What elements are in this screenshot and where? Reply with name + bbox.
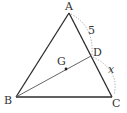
point-g <box>65 68 68 71</box>
label-d: D <box>93 46 102 59</box>
label-a: A <box>64 0 74 13</box>
segment-bd <box>16 56 91 97</box>
label-b: B <box>4 94 12 107</box>
label-c: C <box>112 97 120 110</box>
label-g: G <box>57 55 66 68</box>
label-length-ad: 5 <box>88 24 95 37</box>
label-length-dc: x <box>108 63 115 76</box>
triangle-diagram: A B C D G 5 x <box>0 0 127 113</box>
